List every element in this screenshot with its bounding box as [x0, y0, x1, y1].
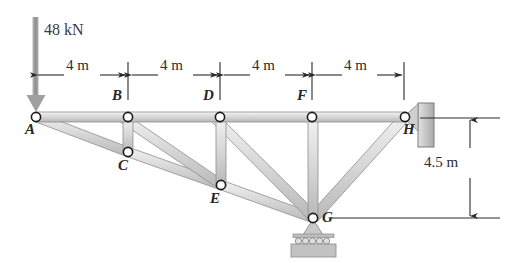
node-label-F: F: [297, 88, 307, 103]
node-label-B: B: [112, 88, 122, 103]
truss-members-group: [36, 112, 409, 223]
load-arrow-shaft: [33, 17, 39, 97]
joint-E: [216, 180, 225, 189]
node-label-C: C: [118, 158, 128, 173]
load-label: 48 kN: [44, 22, 84, 38]
node-label-D: D: [203, 88, 214, 103]
joint-B: [123, 112, 132, 121]
load-arrow-group: [27, 17, 46, 112]
joint-D: [215, 112, 224, 121]
joint-C: [123, 147, 132, 156]
dimension-label-height: 4.5 m: [424, 155, 458, 170]
roller-rail-top: [293, 234, 334, 238]
roller-balls: [295, 238, 329, 244]
member-AB: [36, 112, 129, 122]
dimension-label-4: 4 m: [344, 58, 367, 73]
node-label-G: G: [322, 210, 333, 225]
member-FG: [308, 117, 318, 219]
member-GH: [308, 112, 409, 222]
member-DF: [220, 112, 313, 122]
node-label-E: E: [210, 191, 220, 206]
truss-diagram-figure: 48 kN 4 m 4 m 4 m 4 m 4.5 m A B C D E F …: [0, 0, 513, 263]
load-arrow-head: [27, 95, 46, 112]
dimension-label-3: 4 m: [252, 58, 275, 73]
node-label-H: H: [403, 122, 415, 137]
wall-block: [418, 103, 434, 147]
joint-G: [308, 213, 317, 222]
member-FH: [312, 112, 406, 122]
dimension-label-1: 4 m: [66, 58, 89, 73]
roller-ground-base: [291, 244, 336, 257]
joint-F: [307, 112, 316, 121]
truss-svg-canvas: [0, 0, 513, 263]
member-DE: [216, 117, 226, 186]
dimension-label-2: 4 m: [160, 58, 183, 73]
node-label-A: A: [25, 122, 35, 137]
member-BD: [128, 112, 221, 122]
